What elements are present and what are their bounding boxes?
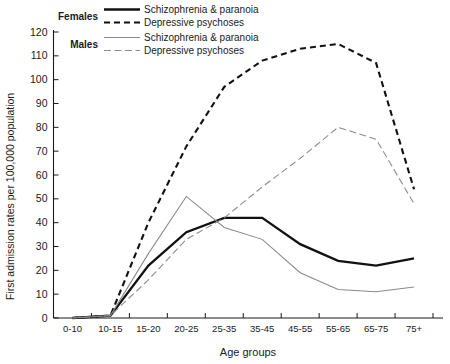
y-tick-label: 80 bbox=[36, 121, 48, 133]
chart-legend: Schizophrenia & paranoiaDepressive psych… bbox=[58, 4, 259, 56]
x-tick-label: 65-75 bbox=[364, 323, 388, 334]
y-tick-label: 120 bbox=[30, 26, 48, 38]
y-axis-title: First admission rates per 100,000 popula… bbox=[4, 93, 16, 300]
y-axis-tick-labels: 0102030405060708090100110120 bbox=[30, 26, 48, 324]
series-line bbox=[72, 127, 414, 318]
x-tick-label: 10-15 bbox=[98, 323, 122, 334]
y-tick-label: 0 bbox=[42, 312, 48, 324]
series-line bbox=[72, 44, 414, 318]
chart-figure: First admission rates per 100,000 popula… bbox=[0, 0, 450, 364]
legend-label: Schizophrenia & paranoia bbox=[144, 32, 259, 43]
y-tick-label: 70 bbox=[36, 145, 48, 157]
x-tick-label: 35-45 bbox=[250, 323, 274, 334]
legend-group-label: Females bbox=[58, 11, 98, 22]
legend-label: Schizophrenia & paranoia bbox=[144, 4, 259, 15]
legend-label: Depressive psychoses bbox=[144, 17, 244, 28]
y-tick-label: 110 bbox=[31, 49, 48, 61]
x-tick-label: 55-65 bbox=[326, 323, 350, 334]
chart-svg: First admission rates per 100,000 popula… bbox=[0, 0, 450, 364]
x-tick-label: 0-10 bbox=[63, 323, 82, 334]
y-tick-label: 10 bbox=[36, 288, 48, 300]
x-tick-label: 45-55 bbox=[288, 323, 312, 334]
legend-label: Depressive psychoses bbox=[144, 45, 244, 56]
x-tick-label: 15-20 bbox=[136, 323, 160, 334]
x-axis-title: Age groups bbox=[220, 346, 277, 358]
y-tick-label: 30 bbox=[36, 240, 48, 252]
y-tick-label: 90 bbox=[36, 97, 48, 109]
x-axis-tick-labels: 0-1010-1515-2020-2525-3535-4545-5555-656… bbox=[63, 323, 423, 334]
x-tick-label: 25-35 bbox=[212, 323, 236, 334]
y-tick-label: 40 bbox=[36, 216, 48, 228]
y-tick-label: 60 bbox=[36, 169, 48, 181]
series-layer bbox=[72, 44, 414, 318]
legend-group-label: Males bbox=[70, 39, 98, 50]
y-tick-label: 100 bbox=[30, 73, 48, 85]
y-tick-label: 50 bbox=[36, 192, 48, 204]
x-tick-label: 75+ bbox=[406, 323, 423, 334]
x-tick-label: 20-25 bbox=[174, 323, 198, 334]
y-axis-ticks bbox=[54, 32, 59, 318]
y-tick-label: 20 bbox=[36, 264, 48, 276]
